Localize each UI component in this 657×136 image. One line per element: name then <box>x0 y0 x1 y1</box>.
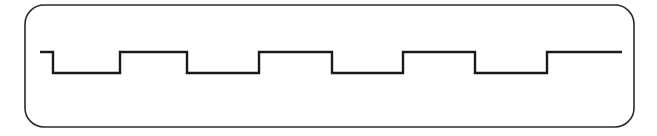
rounded-rectangle-frame <box>25 5 634 127</box>
square-wave-trace <box>40 52 622 73</box>
square-wave-figure <box>0 0 657 136</box>
figure-canvas: Square wave timing diagram <box>0 0 657 136</box>
